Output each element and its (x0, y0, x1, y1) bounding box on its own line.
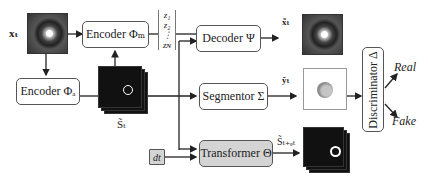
encoder-m-label: Encoder Φₘ (86, 27, 145, 42)
decoder-label: Decoder Ψ (202, 31, 255, 46)
encoder-a-label: Encoder Φₐ (20, 84, 75, 99)
s-t-label: S̃ₜ (117, 118, 126, 131)
latent-vector: z₁ z₂ ⋮ zɴ (158, 10, 176, 50)
segmentation-blob (317, 82, 333, 98)
pred-mask-ring (330, 146, 341, 157)
input-x-label: xₜ (9, 27, 19, 40)
decoder-block: Decoder Ψ (196, 25, 261, 52)
pred-mask-stack-front (303, 127, 344, 167)
latent-z2: z₂ (161, 20, 173, 30)
real-label: Real (394, 60, 416, 75)
segmentor-block: Segmentor Σ (199, 83, 268, 110)
transformer-block: Transformer Θ (199, 140, 273, 167)
encoder-a-block: Encoder Φₐ (16, 78, 80, 105)
s-next-label: S̃ₜ₊ₑₜ (277, 136, 295, 147)
segmentation-output-image (303, 68, 347, 110)
fake-label: Fake (392, 114, 416, 129)
discriminator-label: Discriminator Δ (366, 51, 381, 128)
mask-ring (123, 85, 133, 95)
latent-dots: ⋮ (161, 30, 173, 40)
latent-z1: z₁ (161, 10, 173, 20)
y-hat-label: ỹₜ (282, 75, 290, 85)
latent-zn: zɴ (161, 40, 173, 50)
reconstructed-image (302, 14, 343, 55)
dt-input: dt (149, 149, 165, 165)
discriminator-block: Discriminator Δ (362, 47, 384, 132)
transformer-label: Transformer Θ (200, 146, 271, 161)
segmentor-label: Segmentor Σ (203, 89, 265, 104)
mask-stack-front (98, 66, 142, 108)
x-hat-label: x̃ₜ (282, 17, 290, 27)
encoder-m-block: Encoder Φₘ (82, 21, 149, 48)
input-image (27, 13, 68, 54)
dt-label: dt (153, 152, 161, 163)
